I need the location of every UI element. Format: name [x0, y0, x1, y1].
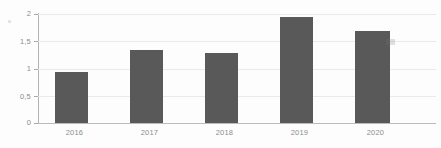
bar-chart: 2 1,5 1 0,5 0 2016 2017 2018 2019 2020: [0, 0, 441, 148]
y-axis-tick-label-2: 2: [27, 10, 31, 18]
bar-2016: [55, 72, 88, 123]
x-axis-tick-label-2017: 2017: [116, 128, 183, 137]
y-axis-tick-label-0-5: 0,5: [20, 93, 31, 101]
y-axis-labels: 2 1,5 1 0,5 0: [0, 0, 31, 148]
plot-area: [38, 10, 436, 123]
bar-2020: [355, 31, 390, 123]
scan-artifact-smudge: [386, 39, 395, 45]
y-axis-tick-label-1: 1: [27, 65, 31, 73]
bar-2018: [205, 53, 238, 123]
y-axis-tick-label-0: 0: [27, 119, 31, 127]
x-axis-tick-label-2018: 2018: [191, 128, 258, 137]
y-axis-tick-label-1-5: 1,5: [20, 38, 31, 46]
bars-layer: [38, 10, 436, 123]
bar-2019: [280, 17, 313, 123]
x-axis-tick-label-2020: 2020: [341, 128, 410, 137]
x-axis-tick-label-2019: 2019: [266, 128, 333, 137]
gridline-0-baseline: [38, 123, 436, 124]
bar-2017: [130, 50, 163, 123]
scan-artifact-speck: [8, 20, 11, 23]
x-axis-tick-label-2016: 2016: [41, 128, 108, 137]
